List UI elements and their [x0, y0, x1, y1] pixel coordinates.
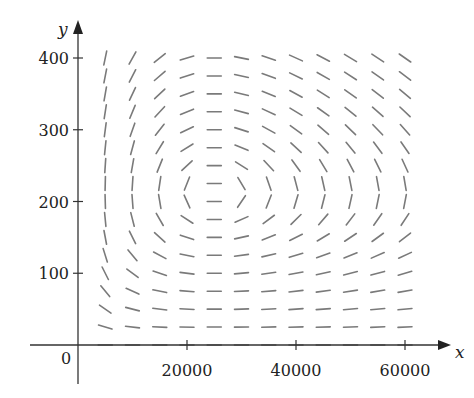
slope-segment: [317, 253, 330, 258]
slope-segment: [371, 327, 385, 328]
slope-segment: [345, 72, 357, 80]
slope-segment: [289, 272, 303, 275]
slope-segment: [376, 195, 379, 209]
slope-segment: [159, 177, 161, 191]
slope-segment: [235, 145, 248, 150]
slope-segment: [316, 290, 330, 292]
slope-segment: [400, 89, 411, 98]
slope-segment: [235, 236, 249, 239]
slope-segment: [238, 178, 245, 190]
y-axis-label: y: [57, 19, 68, 39]
slope-segment: [399, 252, 412, 258]
slope-segment: [180, 291, 194, 292]
slope-segment: [289, 309, 303, 310]
slope-segment: [235, 110, 249, 114]
slope-segment: [99, 305, 111, 313]
slope-segment: [129, 52, 136, 64]
slope-segment: [180, 235, 193, 239]
slope-segment: [238, 196, 246, 208]
x-axis: x: [30, 340, 465, 362]
slope-segment: [235, 291, 249, 292]
slope-segment: [236, 162, 248, 169]
slope-segment: [104, 87, 106, 101]
slope-segment: [290, 108, 302, 115]
slope-segment: [399, 72, 410, 80]
slope-segment: [344, 327, 358, 328]
y-axis-arrow-icon: [73, 20, 83, 34]
slope-segment: [180, 56, 193, 60]
slope-segment: [159, 195, 161, 209]
slope-segment: [372, 233, 383, 241]
slope-segment: [316, 272, 330, 275]
slope-segment: [180, 254, 194, 257]
slope-segment: [154, 71, 165, 80]
slope-segment: [371, 253, 384, 259]
slope-segment: [262, 254, 276, 257]
slope-segment: [266, 195, 271, 208]
slope-segment: [235, 57, 249, 60]
segments-layer: [98, 51, 412, 345]
slope-segment: [345, 107, 356, 116]
slope-segment: [103, 249, 107, 262]
slope-segment: [184, 177, 189, 190]
y-tick-label: 100: [38, 264, 69, 283]
slope-segment: [375, 159, 381, 172]
slope-segment: [155, 233, 165, 242]
slope-segment: [155, 124, 164, 135]
slope-segment: [153, 308, 167, 310]
slope-segment: [345, 90, 356, 98]
slope-segment: [181, 144, 193, 151]
slope-segment: [374, 214, 382, 225]
slope-segment: [184, 195, 190, 208]
slope-segment: [235, 128, 248, 132]
slope-segment: [346, 214, 355, 225]
slope-segment: [401, 142, 409, 153]
slope-segment: [263, 144, 274, 152]
slope-segment: [132, 177, 133, 191]
slope-segment: [398, 327, 412, 328]
slope-segment: [126, 288, 139, 294]
slope-segment: [349, 177, 352, 191]
slope-segment: [102, 267, 108, 280]
slope-segment: [402, 159, 408, 172]
slope-segment: [263, 215, 274, 223]
slope-segment: [180, 309, 194, 310]
slope-segment: [344, 290, 358, 292]
slope-segment: [318, 108, 329, 116]
slope-segment: [290, 126, 301, 134]
slope-segment: [290, 55, 303, 61]
slope-segment: [371, 308, 385, 309]
slope-segment: [371, 290, 385, 292]
slope-segment: [131, 141, 135, 155]
slope-segment: [262, 272, 276, 274]
slope-segment: [400, 125, 409, 135]
slope-segment: [126, 326, 140, 328]
slope-segment: [317, 55, 329, 62]
slope-segment: [399, 54, 410, 62]
slope-segment: [127, 269, 138, 277]
slope-segment: [130, 123, 135, 136]
slope-segment: [262, 109, 275, 115]
slope-segment: [181, 216, 193, 224]
slope-segment: [316, 309, 330, 310]
slope-segment: [372, 54, 384, 62]
slope-segment: [290, 91, 302, 98]
slope-segment: [400, 107, 410, 117]
slope-segment: [262, 56, 275, 61]
x-tick-label: 40000: [271, 361, 322, 380]
slope-segment: [104, 51, 107, 65]
slope-segment: [345, 125, 355, 135]
slope-segment: [235, 273, 249, 274]
slope-segment: [156, 213, 163, 225]
slope-segment: [318, 125, 329, 134]
slope-segment: [401, 214, 409, 226]
slope-segment: [156, 142, 163, 154]
slope-segment: [128, 250, 137, 261]
slope-segment: [289, 290, 303, 292]
slope-segment: [292, 160, 300, 171]
slope-segment: [399, 233, 410, 242]
slope-segment: [263, 126, 275, 133]
slope-segment: [104, 69, 107, 83]
slope-segment: [377, 177, 380, 191]
slope-segment: [105, 212, 106, 226]
